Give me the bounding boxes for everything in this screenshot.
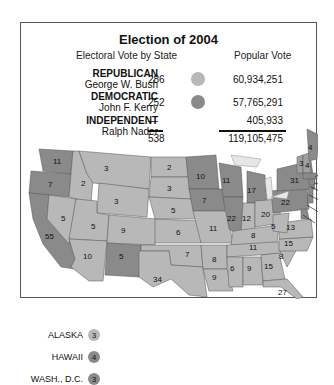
nm-ev: 5 <box>119 252 124 261</box>
tx-ev: 34 <box>153 275 162 284</box>
republican-popular-votes: 60,934,251 <box>233 74 283 85</box>
oh-ev: 20 <box>261 210 270 219</box>
ne-ev: 5 <box>171 206 176 215</box>
co-ev: 9 <box>121 226 126 235</box>
republican-electoral-votes: 286 <box>148 74 165 85</box>
inset-value: 4 <box>88 351 100 363</box>
party-name: REPUBLICAN <box>85 68 158 79</box>
ga-ev: 15 <box>264 262 273 271</box>
or-ev: 7 <box>48 180 53 189</box>
state-ma <box>303 173 317 179</box>
il-ev: 22 <box>227 214 236 223</box>
ms-ev: 6 <box>230 264 235 273</box>
wa-ev: 11 <box>53 157 62 166</box>
us-electoral-map: 11 7 55 2 5 3 3 5 10 9 5 2 3 5 6 7 34 10… <box>21 119 318 299</box>
inset-label: HAWAII <box>21 352 83 362</box>
vt-ev: 3 <box>299 159 304 168</box>
me-ev: 4 <box>308 143 313 152</box>
nd-ev: 2 <box>167 163 172 172</box>
ut-ev: 5 <box>91 222 96 231</box>
in-ev: 12 <box>242 214 251 223</box>
inset-value: 3 <box>88 329 100 341</box>
ia-ev: 7 <box>202 196 207 205</box>
mi-ev: 17 <box>247 186 256 195</box>
candidate-name: George W. Bush <box>85 79 158 90</box>
election-map-figure: Election of 2004 Electoral Vote by State… <box>20 22 317 298</box>
tn-ev: 11 <box>249 243 258 252</box>
inset-value: 3 <box>88 373 100 385</box>
id-ev: 2 <box>81 179 86 188</box>
inset-label: ALASKA <box>21 330 83 340</box>
popular-vote-header: Popular Vote <box>234 50 291 61</box>
republican-party-label: REPUBLICAN George W. Bush <box>85 68 158 90</box>
state-md <box>301 209 309 219</box>
mo-ev: 11 <box>209 224 218 233</box>
state-al <box>243 257 263 285</box>
sc-ev: 8 <box>279 252 284 261</box>
ny-ev: 31 <box>290 176 299 185</box>
state-ct <box>309 179 315 185</box>
ks-ev: 6 <box>176 228 181 237</box>
ar-ev: 8 <box>212 255 217 264</box>
figure-title: Election of 2004 <box>21 32 316 47</box>
republican-color-swatch <box>191 72 205 86</box>
al-ev: 9 <box>247 264 252 273</box>
inset-dc: WASH., D.C. 3 <box>21 373 100 385</box>
wy-ev: 3 <box>114 197 119 206</box>
nh-ev: 4 <box>305 161 310 170</box>
inset-alaska: ALASKA 3 <box>21 329 100 341</box>
electoral-vote-header: Electoral Vote by State <box>76 50 177 61</box>
democratic-color-swatch <box>191 95 205 109</box>
mn-ev: 10 <box>196 172 205 181</box>
state-co <box>107 215 157 245</box>
inset-label: WASH., D.C. <box>21 374 83 384</box>
fl-ev: 27 <box>278 288 287 297</box>
sd-ev: 3 <box>167 184 172 193</box>
mt-ev: 3 <box>104 164 109 173</box>
az-ev: 10 <box>83 252 92 261</box>
la-ev: 9 <box>212 273 217 282</box>
ok-ev: 7 <box>185 250 190 259</box>
nc-ev: 15 <box>284 239 293 248</box>
state-ia <box>189 189 225 211</box>
ca-ev: 55 <box>45 232 54 241</box>
va-ev: 13 <box>286 223 295 232</box>
democratic-electoral-votes: 252 <box>148 97 165 108</box>
state-wy <box>97 183 149 217</box>
inset-hawaii: HAWAII 4 <box>21 351 100 363</box>
democratic-popular-votes: 57,765,291 <box>233 97 283 108</box>
ky-ev: 8 <box>251 231 256 240</box>
nv-ev: 5 <box>61 214 66 223</box>
wi-ev: 11 <box>222 176 231 185</box>
wv-ev: 5 <box>271 222 276 231</box>
pa-ev: 22 <box>281 198 290 207</box>
